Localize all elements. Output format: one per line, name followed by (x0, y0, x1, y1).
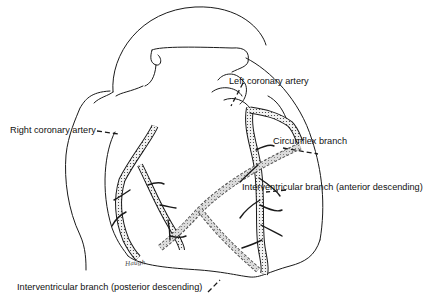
label-anterior-descending: Interventricular branch (anterior descen… (242, 183, 423, 192)
label-circumflex-branch: Circumflex branch (273, 137, 347, 146)
aorta-stub (152, 47, 248, 72)
artist-signature: Haugh (125, 258, 146, 266)
right-atrium (66, 91, 110, 270)
label-right-coronary-artery: Right coronary artery (10, 126, 96, 135)
inferior-border (128, 240, 320, 277)
leader-posterior (208, 280, 220, 292)
label-posterior-descending: Interventricular branch (posterior desce… (17, 283, 202, 292)
heart-diagram (0, 0, 434, 301)
label-left-coronary-artery: Left coronary artery (229, 77, 309, 86)
